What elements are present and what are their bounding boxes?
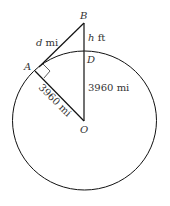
label-radius-vertical: 3960 mi [88, 82, 129, 93]
earth-tangent-diagram: B h ft d mi D A 3960 mi 3960 mi O [0, 0, 170, 206]
label-h-ft: h ft [88, 32, 105, 43]
point-label-d: D [86, 54, 95, 65]
right-angle-marker [43, 64, 50, 78]
point-label-b: B [79, 10, 87, 21]
point-label-a: A [23, 61, 31, 72]
label-radius-slanted: 3960 mi [37, 82, 74, 119]
point-label-o: O [80, 124, 88, 135]
label-d-mi: d mi [36, 37, 58, 48]
